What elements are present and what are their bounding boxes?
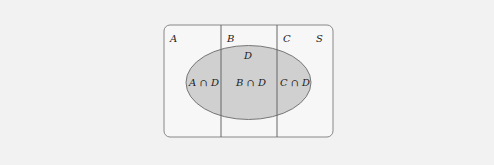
set-a-label: A <box>169 33 177 44</box>
venn-diagram: A B C S D A ∩ D B ∩ D C ∩ D <box>0 0 494 165</box>
b-intersect-d-label: B ∩ D <box>235 77 266 88</box>
c-intersect-d-label: C ∩ D <box>280 77 310 88</box>
a-intersect-d-label: A ∩ D <box>188 77 219 88</box>
event-d-label: D <box>243 50 252 61</box>
set-c-label: C <box>283 33 291 44</box>
universe-s-label: S <box>316 33 323 44</box>
set-b-label: B <box>226 33 234 44</box>
